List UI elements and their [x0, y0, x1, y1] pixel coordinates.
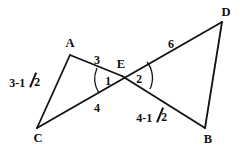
fraction-slash-group: 2 [155, 110, 168, 122]
vertex-label-C: C [33, 132, 42, 145]
line-segment-A-C [37, 55, 70, 128]
segment-label-AC: 3-1 2 [9, 75, 41, 89]
vertex-label-E: E [117, 58, 126, 71]
vertex-label-A: A [65, 37, 74, 50]
segment-label-ED: 6 [168, 38, 174, 50]
mixed-denominator: 2 [161, 112, 167, 124]
vertex-label-B: B [204, 133, 213, 146]
segment-label-AE: 3 [94, 54, 100, 66]
angle-label-1: 1 [105, 76, 111, 88]
vertex-label-D: D [221, 6, 230, 19]
mixed-number-4-and-half: 4-1 2 [136, 110, 168, 124]
line-segment-D-B [205, 22, 222, 128]
fraction-slash-group: 2 [28, 75, 41, 87]
segment-label-EB: 4-1 2 [136, 110, 168, 124]
angle-label-2: 2 [136, 74, 142, 86]
segment-label-EC: 4 [94, 102, 100, 114]
mixed-denominator: 2 [34, 77, 40, 89]
mixed-whole-part: 3-1 [9, 76, 25, 90]
angle-2-arc [147, 62, 152, 89]
mixed-whole-part: 4-1 [136, 111, 152, 125]
angle-1-arc [95, 68, 99, 93]
diagram-canvas: A C E D B 3 4 6 3-1 2 4-1 2 1 2 [0, 0, 240, 148]
mixed-number-3-and-half: 3-1 2 [9, 75, 41, 89]
